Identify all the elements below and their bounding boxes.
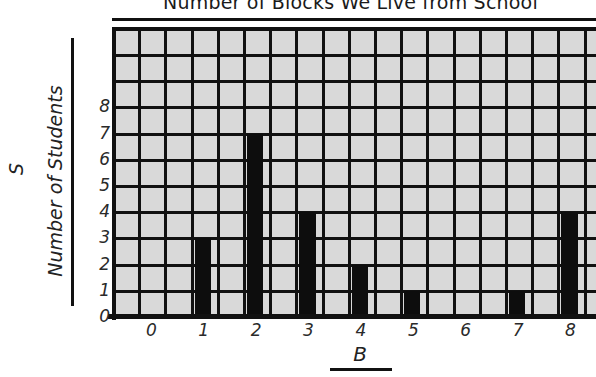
- gridline-vertical: [348, 27, 351, 317]
- gridline-vertical: [217, 27, 220, 317]
- gridline-vertical: [426, 27, 429, 317]
- gridline-horizontal: [112, 159, 596, 162]
- gridline-vertical: [322, 27, 325, 317]
- bar-1: [195, 238, 211, 317]
- gridline-horizontal: [112, 133, 596, 136]
- chart-title: Number of Blocks We Live from School: [105, 0, 596, 13]
- x-tick-label: 4: [346, 322, 376, 339]
- x-tick-label: 5: [398, 322, 428, 339]
- gridline-vertical: [453, 27, 456, 317]
- y-tick-label: 1: [88, 282, 110, 299]
- gridline-vertical: [584, 27, 587, 317]
- gridline-vertical: [400, 27, 403, 317]
- y-tick-label: 2: [88, 256, 110, 273]
- gridline-vertical: [164, 27, 167, 317]
- y-tick-label: 0: [88, 308, 110, 325]
- gridline-horizontal: [112, 80, 596, 83]
- bar-8: [561, 212, 577, 317]
- title-underline: [112, 18, 596, 21]
- gridline-vertical: [479, 27, 482, 317]
- gridline-vertical: [269, 27, 272, 317]
- bar-4: [352, 265, 368, 317]
- bar-3: [299, 212, 315, 317]
- gridline-vertical: [374, 27, 377, 317]
- y-axis-title: Number of Students: [44, 66, 66, 296]
- gridline-horizontal: [112, 185, 596, 188]
- x-tick-label: 8: [556, 322, 586, 339]
- y-axis-ticks: 876543210: [84, 0, 110, 377]
- y-tick-label: 8: [88, 98, 110, 115]
- chart-canvas: Number of Blocks We Live from School S N…: [0, 0, 596, 377]
- x-axis-title: B: [300, 342, 420, 366]
- x-tick-label: 0: [136, 322, 166, 339]
- x-tick-label: 3: [294, 322, 324, 339]
- gridline-horizontal: [112, 211, 596, 214]
- plot-frame-top: [112, 27, 596, 30]
- y-tick-label: 3: [88, 229, 110, 246]
- y-axis-label-rule: [71, 38, 74, 306]
- y-tick-label: 5: [88, 177, 110, 194]
- y-tick-label: 4: [88, 203, 110, 220]
- gridline-vertical: [191, 27, 194, 317]
- gridline-vertical: [505, 27, 508, 317]
- gridline-vertical: [243, 27, 246, 317]
- gridline-vertical: [295, 27, 298, 317]
- x-tick-label: 2: [241, 322, 271, 339]
- gridline-horizontal: [112, 237, 596, 240]
- x-tick-label: 6: [451, 322, 481, 339]
- y-tick-label: 7: [88, 125, 110, 142]
- gridline-vertical: [138, 27, 141, 317]
- x-axis-line: [108, 314, 596, 319]
- y-axis-letter: S: [5, 163, 27, 175]
- x-tick-label: 7: [503, 322, 533, 339]
- gridline-horizontal: [112, 106, 596, 109]
- gridline-vertical: [531, 27, 534, 317]
- plot-frame-left: [112, 27, 116, 320]
- gridline-horizontal: [112, 54, 596, 57]
- bar-2: [247, 134, 263, 317]
- x-tick-label: 1: [189, 322, 219, 339]
- y-tick-label: 6: [88, 151, 110, 168]
- gridline-vertical: [557, 27, 560, 317]
- x-axis-label-rule: [330, 368, 392, 371]
- plot-area: [112, 27, 596, 317]
